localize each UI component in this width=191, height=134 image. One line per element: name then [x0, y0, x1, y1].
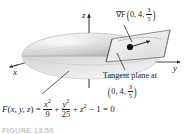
gradient-coords: 0, 4,: [130, 10, 144, 19]
ellipsoid-tangent-plane-figure: x y z ∇F(0, 4, 35) Tangent plane at (0, …: [0, 0, 191, 134]
gradient-fraction-denominator: 5: [146, 15, 151, 22]
equation-term1-fraction: x29: [43, 100, 52, 119]
gradient-paren-close: ): [152, 8, 155, 21]
gradient-fraction-numerator: 3: [146, 7, 151, 15]
gradient-fraction: 35: [146, 7, 151, 22]
figure-caption: FIGURE 13.56: [2, 126, 54, 134]
equation-minus: −: [89, 104, 94, 114]
equation-arguments: x, y, z: [11, 104, 31, 114]
equation-equals-2: =: [103, 104, 108, 114]
equation-term1-denominator: 9: [43, 110, 52, 119]
equation-term3-exponent: 2: [84, 102, 87, 109]
axis-label-x: x: [13, 68, 17, 77]
axis-label-z: z: [82, 11, 86, 20]
equation-plus-1: +: [54, 104, 59, 114]
equation-term1-numerator: x2: [43, 100, 52, 110]
tangent-coords: 0, 4,: [111, 87, 125, 96]
tangent-fraction: 35: [128, 84, 133, 99]
equation-zero: 0: [110, 104, 115, 114]
tangent-fraction-denominator: 5: [128, 92, 133, 99]
surface-equation: F(x, y, z) = x29 + y225 + z2 − 1 = 0: [2, 100, 115, 119]
equation-one: 1: [96, 104, 101, 114]
tangent-plane-annotation-line2: (0, 4, 35): [107, 83, 137, 100]
tangent-point-dot: [127, 44, 133, 50]
equation-term2-exponent: 2: [66, 97, 69, 104]
gradient-paren-open: (: [126, 8, 129, 21]
equation-term1-exponent: 2: [48, 97, 51, 104]
equation-paren-close: ): [31, 104, 34, 114]
gradient-annotation: ∇F(0, 4, 35): [116, 6, 156, 23]
tangent-paren-close: ): [134, 85, 137, 98]
equation-equals-1: =: [36, 104, 41, 114]
tangent-plane-annotation-line1: Tangent plane at: [103, 72, 157, 80]
equation-term2-numerator: y2: [62, 100, 71, 110]
axis-label-y: y: [173, 64, 177, 73]
tangent-fraction-numerator: 3: [128, 84, 133, 92]
nabla-icon: ∇F: [116, 10, 126, 19]
equation-term2-fraction: y225: [62, 100, 71, 119]
tangent-paren-open: (: [108, 85, 111, 98]
equation-term2-denominator: 25: [62, 110, 71, 119]
equation-plus-2: +: [73, 104, 78, 114]
